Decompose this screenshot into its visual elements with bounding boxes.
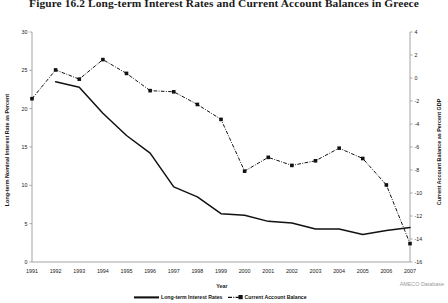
data-point-marker [125, 72, 129, 76]
y2-tick-label: -8 [415, 167, 420, 173]
data-point-marker [219, 118, 223, 122]
x-tick-label: 2004 [333, 268, 345, 274]
tick-marks [29, 32, 412, 262]
y-axis-tick-labels: 051015202530 [22, 29, 28, 265]
y2-tick-label: -10 [415, 190, 423, 196]
data-point-marker [408, 242, 412, 246]
legend-marker-current-account [239, 295, 243, 299]
x-tick-label: 1996 [144, 268, 156, 274]
y2-tick-label: 4 [415, 29, 418, 35]
y2-tick-label: 0 [415, 75, 418, 81]
data-point-marker [337, 146, 341, 150]
chart-canvas: 051015202530 420-2-4-6-8-10-12-14-16 199… [0, 0, 448, 303]
data-point-marker [54, 68, 58, 72]
y2-tick-label: -12 [415, 213, 423, 219]
x-tick-label: 1994 [97, 268, 109, 274]
y2-tick-label: -14 [415, 236, 423, 242]
series-line-0 [56, 82, 410, 235]
y2-tick-label: -16 [415, 259, 423, 265]
x-tick-label: 1992 [50, 268, 62, 274]
data-point-marker [361, 157, 365, 161]
data-point-marker [196, 103, 200, 107]
y2-tick-label: -4 [415, 121, 420, 127]
y2-tick-label: 2 [415, 52, 418, 58]
x-tick-label: 2006 [380, 268, 392, 274]
legend-label-current-account: Current Account Balance [245, 294, 307, 300]
data-point-marker [30, 97, 34, 101]
x-tick-label: 2007 [404, 268, 416, 274]
x-tick-label: 1999 [215, 268, 227, 274]
data-point-marker [148, 89, 152, 93]
data-point-marker [385, 183, 389, 187]
data-point-marker [243, 169, 247, 173]
x-tick-label: 2002 [286, 268, 298, 274]
x-tick-label: 2001 [262, 268, 274, 274]
x-tick-label: 1998 [191, 268, 203, 274]
y2-tick-label: -2 [415, 98, 420, 104]
x-tick-label: 2000 [239, 268, 251, 274]
y-tick-label: 30 [22, 29, 28, 35]
y-tick-label: 0 [25, 259, 28, 265]
series-line-1 [32, 60, 410, 244]
y-tick-label: 25 [22, 67, 28, 73]
y2-tick-label: -6 [415, 144, 420, 150]
data-series [30, 58, 412, 246]
x-axis-tick-labels: 1991199219931994199519961997199819992000… [26, 268, 416, 274]
chart-container: 051015202530 420-2-4-6-8-10-12-14-16 199… [0, 0, 448, 303]
x-tick-label: 1997 [168, 268, 180, 274]
legend-label-interest-rates: Long-term Interest Rates [161, 294, 223, 300]
x-tick-label: 1991 [26, 268, 38, 274]
y-tick-label: 10 [22, 182, 28, 188]
data-point-marker [77, 77, 81, 81]
data-point-marker [266, 156, 270, 160]
y-axis-title: Long-term Nominal Interest Rate as Perce… [4, 94, 10, 207]
data-point-marker [101, 58, 105, 62]
x-tick-label: 1995 [121, 268, 133, 274]
source-note: AMECO Database [400, 281, 444, 287]
x-tick-label: 1993 [73, 268, 85, 274]
data-point-marker [314, 159, 318, 163]
y2-axis-title: Current Account Balance as Percent GDP [436, 98, 442, 205]
y-tick-label: 20 [22, 106, 28, 112]
y2-axis-tick-labels: 420-2-4-6-8-10-12-14-16 [415, 29, 423, 265]
x-tick-label: 2003 [310, 268, 322, 274]
data-point-marker [290, 164, 294, 168]
x-tick-label: 2005 [357, 268, 369, 274]
y-tick-label: 15 [22, 144, 28, 150]
chart-legend: Long-term Interest Rates Current Account… [134, 294, 307, 300]
axes [32, 32, 410, 262]
x-axis-title: Year [216, 283, 228, 289]
y-tick-label: 5 [25, 221, 28, 227]
data-point-marker [172, 90, 176, 94]
